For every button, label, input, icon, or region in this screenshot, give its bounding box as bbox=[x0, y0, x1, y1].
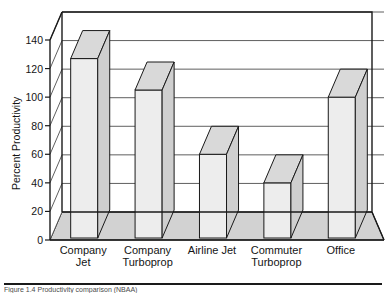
figure-caption: Figure 1.4 Productivity comparison (NBAA… bbox=[4, 286, 382, 293]
x-axis-labels: CompanyJetCompanyTurbopropAirline JetCom… bbox=[60, 244, 355, 268]
x-axis-category-label: Company bbox=[60, 244, 108, 256]
chart-left-wall bbox=[50, 12, 62, 240]
y-tick-label: 100 bbox=[25, 91, 43, 103]
x-axis-category-label: Airline Jet bbox=[188, 244, 236, 256]
x-axis-category-label: Commuter bbox=[251, 244, 303, 256]
x-axis-category-label: Company bbox=[124, 244, 172, 256]
bar-1 bbox=[71, 31, 110, 238]
bar-3 bbox=[199, 126, 238, 238]
y-tick-label: 40 bbox=[31, 177, 43, 189]
y-tick-label: 140 bbox=[25, 34, 43, 46]
y-axis-ticks: 020406080100120140 bbox=[25, 34, 50, 246]
y-axis-title: Percent Productivity bbox=[10, 96, 22, 190]
chart-container: 020406080100120140 CompanyJetCompanyTurb… bbox=[0, 0, 386, 293]
y-tick-label: 60 bbox=[31, 148, 43, 160]
x-axis-category-label: Turboprop bbox=[122, 256, 172, 268]
y-tick-label: 20 bbox=[31, 205, 43, 217]
y-tick-label: 0 bbox=[37, 234, 43, 246]
x-axis-category-label: Turboprop bbox=[251, 256, 301, 268]
y-tick-label: 80 bbox=[31, 120, 43, 132]
bar-chart-3d: 020406080100120140 CompanyJetCompanyTurb… bbox=[0, 0, 386, 293]
caption-rule bbox=[4, 283, 382, 285]
x-axis-category-label: Office bbox=[327, 244, 356, 256]
y-tick-label: 120 bbox=[25, 63, 43, 75]
x-axis-category-label: Jet bbox=[76, 256, 91, 268]
